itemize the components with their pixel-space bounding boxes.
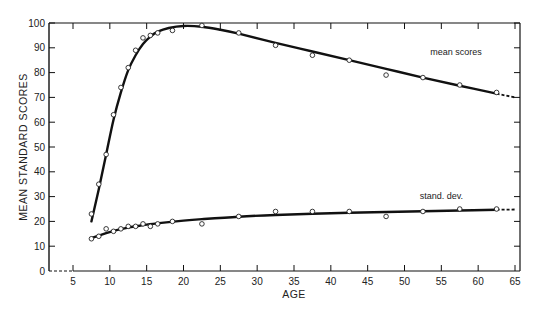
data-point-mean-scores bbox=[104, 152, 109, 157]
data-point-stand-dev bbox=[89, 236, 94, 241]
data-point-mean-scores bbox=[310, 53, 315, 58]
x-tick-label: 30 bbox=[252, 276, 264, 287]
y-tick-label: 90 bbox=[34, 42, 46, 53]
x-tick-label: 45 bbox=[362, 276, 374, 287]
y-tick-label: 50 bbox=[34, 142, 46, 153]
axes bbox=[49, 23, 520, 271]
x-axis-title: AGE bbox=[282, 288, 306, 300]
data-point-stand-dev bbox=[457, 207, 462, 212]
data-point-stand-dev bbox=[384, 214, 389, 219]
data-point-mean-scores bbox=[421, 75, 426, 80]
y-tick-label: 70 bbox=[34, 92, 46, 103]
extrapolation-mean-scores bbox=[497, 94, 515, 98]
data-point-mean-scores bbox=[384, 73, 389, 78]
data-point-mean-scores bbox=[119, 85, 124, 90]
data-point-stand-dev bbox=[310, 209, 315, 214]
data-point-stand-dev bbox=[111, 229, 116, 234]
data-point-stand-dev bbox=[141, 222, 146, 227]
y-tick-label: 10 bbox=[34, 241, 46, 252]
x-tick-label: 50 bbox=[399, 276, 411, 287]
x-tick-label: 65 bbox=[509, 276, 521, 287]
data-point-stand-dev bbox=[236, 214, 241, 219]
x-tick-label: 20 bbox=[178, 276, 190, 287]
y-tick-label: 60 bbox=[34, 117, 46, 128]
x-tick-label: 40 bbox=[325, 276, 337, 287]
y-tick-label: 40 bbox=[34, 166, 46, 177]
data-point-stand-dev bbox=[494, 207, 499, 212]
data-point-mean-scores bbox=[96, 182, 101, 187]
data-point-mean-scores bbox=[457, 83, 462, 88]
curves bbox=[91, 26, 515, 238]
x-tick-label: 10 bbox=[104, 276, 116, 287]
x-tick-label: 25 bbox=[215, 276, 227, 287]
data-point-mean-scores bbox=[155, 31, 160, 36]
data-point-stand-dev bbox=[104, 227, 109, 232]
data-point-stand-dev bbox=[421, 209, 426, 214]
x-tick-label: 5 bbox=[70, 276, 76, 287]
y-axis-title: MEAN STANDARD SCORES bbox=[17, 73, 29, 221]
data-point-mean-scores bbox=[170, 28, 175, 33]
x-tick-label: 55 bbox=[436, 276, 448, 287]
data-point-stand-dev bbox=[96, 234, 101, 239]
data-point-mean-scores bbox=[126, 65, 131, 70]
data-point-stand-dev bbox=[273, 209, 278, 214]
x-tick-label: 15 bbox=[141, 276, 153, 287]
data-point-mean-scores bbox=[133, 48, 138, 53]
data-point-stand-dev bbox=[200, 222, 205, 227]
y-tick-label: 0 bbox=[39, 266, 45, 277]
data-point-mean-scores bbox=[494, 90, 499, 95]
y-tick-label: 20 bbox=[34, 216, 46, 227]
x-tick-label: 60 bbox=[473, 276, 485, 287]
series-label-stand-dev: stand. dev. bbox=[420, 191, 463, 201]
y-tick-label: 30 bbox=[34, 191, 46, 202]
data-point-mean-scores bbox=[148, 33, 153, 38]
data-point-mean-scores bbox=[236, 31, 241, 36]
y-tick-label: 100 bbox=[28, 18, 45, 29]
data-point-mean-scores bbox=[200, 23, 205, 28]
data-point-stand-dev bbox=[347, 209, 352, 214]
fit-curve-stand-dev bbox=[91, 210, 496, 239]
data-point-mean-scores bbox=[347, 58, 352, 63]
data-point-mean-scores bbox=[141, 36, 146, 41]
data-point-stand-dev bbox=[155, 222, 160, 227]
data-point-mean-scores bbox=[273, 43, 278, 48]
ticks: 5101520253035404550556065010203040506070… bbox=[28, 18, 521, 288]
data-point-mean-scores bbox=[111, 112, 116, 117]
data-point-stand-dev bbox=[119, 227, 124, 232]
series-label-mean-scores: mean scores bbox=[430, 47, 482, 57]
labels: mean scoresstand. dev. bbox=[420, 47, 483, 201]
y-tick-label: 80 bbox=[34, 67, 46, 78]
data-point-stand-dev bbox=[148, 224, 153, 229]
data-point-stand-dev bbox=[170, 219, 175, 224]
x-tick-label: 35 bbox=[288, 276, 300, 287]
chart: 5101520253035404550556065010203040506070… bbox=[0, 0, 540, 316]
data-point-stand-dev bbox=[133, 224, 138, 229]
data-point-stand-dev bbox=[126, 224, 131, 229]
data-point-mean-scores bbox=[89, 212, 94, 217]
